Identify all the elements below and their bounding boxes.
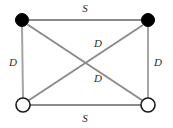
edge-label-right: D	[154, 57, 162, 68]
graph-canvas	[0, 0, 173, 128]
edge-label-diagonal-upper: D	[94, 38, 102, 49]
node-top-left	[16, 14, 29, 27]
node-top-right	[142, 14, 155, 27]
edge-left-line	[22, 27, 23, 99]
node-bottom-right	[141, 98, 155, 112]
edge-label-bottom: S	[82, 113, 88, 124]
node-bottom-left	[16, 98, 30, 112]
graph-diagram: S S D D D D	[0, 0, 173, 128]
edge-label-left: D	[9, 57, 17, 68]
edge-label-top: S	[82, 3, 88, 14]
edge-label-diagonal-lower: D	[94, 73, 102, 84]
